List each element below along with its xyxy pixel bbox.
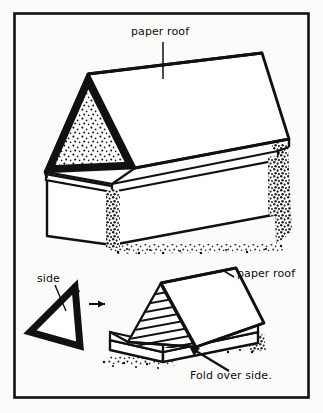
illustration-page: paper roof paper roof side Fold over sid… bbox=[0, 0, 323, 413]
label-paper-roof-top: paper roof bbox=[131, 25, 189, 38]
box-edge-stipple bbox=[106, 189, 120, 248]
instruction-figure bbox=[0, 0, 323, 413]
side-piece-illustration bbox=[30, 284, 105, 346]
top-illustration bbox=[45, 42, 292, 254]
arrow-right-icon bbox=[89, 301, 105, 308]
bottom-illustration bbox=[103, 268, 266, 371]
label-side: side bbox=[37, 272, 60, 285]
side-triangle bbox=[30, 287, 80, 346]
label-fold-over-side: Fold over side. bbox=[190, 369, 272, 382]
label-paper-roof-bottom: paper roof bbox=[237, 267, 295, 280]
